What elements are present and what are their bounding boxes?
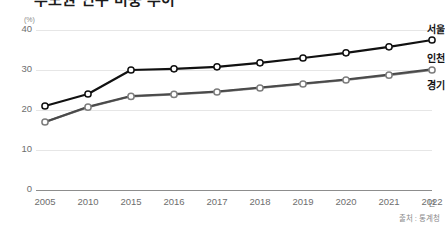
source-note: 출처 : 통계청 xyxy=(399,212,440,223)
chart-container: 수도권 인구 비중 추이 (%) 403020100 2005201020152… xyxy=(0,0,445,236)
data-point-marker xyxy=(85,104,91,110)
data-point-marker xyxy=(300,55,306,61)
series-label-incheon: 인천 xyxy=(427,50,445,65)
data-point-marker xyxy=(386,44,392,50)
data-point-marker xyxy=(386,72,392,78)
series-line-gyeonggi xyxy=(45,70,432,122)
line-chart-svg xyxy=(0,0,445,236)
data-point-marker xyxy=(42,103,48,109)
series-label-seoul: 서울 xyxy=(427,21,445,36)
plot-area: 403020100 200520102015201620172018201920… xyxy=(0,0,445,236)
data-point-marker xyxy=(85,91,91,97)
data-point-marker xyxy=(429,37,435,43)
data-point-marker xyxy=(300,81,306,87)
series-line-incheon xyxy=(45,69,432,122)
series-label-gyeonggi: 경기 xyxy=(427,77,445,92)
x-axis-unit-label: 년 xyxy=(428,197,435,208)
data-point-marker xyxy=(42,119,48,125)
series-line-seoul xyxy=(45,40,432,106)
data-point-marker xyxy=(257,60,263,66)
data-point-marker xyxy=(214,64,220,70)
data-point-marker xyxy=(128,93,134,99)
data-point-marker xyxy=(128,67,134,73)
data-point-marker xyxy=(171,66,177,72)
data-point-marker xyxy=(429,67,435,73)
data-point-marker xyxy=(171,91,177,97)
data-point-marker xyxy=(257,85,263,91)
data-point-marker xyxy=(343,77,349,83)
data-point-marker xyxy=(214,89,220,95)
data-point-marker xyxy=(343,50,349,56)
